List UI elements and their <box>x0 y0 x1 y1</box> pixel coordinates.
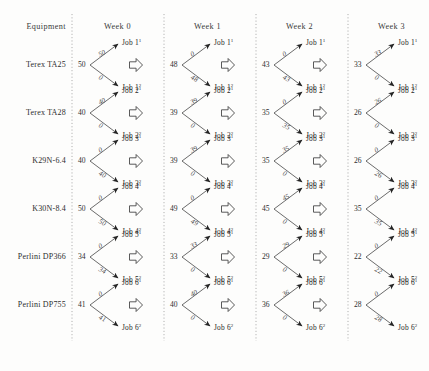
week-value-3-0: 50 <box>78 205 86 213</box>
job-label-top-1-1: Job 21 <box>214 86 234 95</box>
job-label-top-5-0: Job 61 <box>122 278 142 287</box>
equipment-name-3: K30N-8.4 <box>32 205 66 213</box>
week-value-1-0: 40 <box>78 109 86 117</box>
equipment-name-2: K29N-6.4 <box>32 157 66 165</box>
week-value-4-2: 29 <box>262 253 270 261</box>
week-value-1-2: 35 <box>262 109 270 117</box>
equipment-name-4: Perlini DP366 <box>18 253 66 261</box>
week-value-0-2: 43 <box>262 61 270 69</box>
week-value-3-3: 35 <box>354 205 362 213</box>
job-label-top-3-0: Job 41 <box>122 182 142 191</box>
week-value-5-2: 36 <box>262 301 270 309</box>
week-value-0-1: 48 <box>170 61 178 69</box>
job-label-bottom-5-2: Job 62 <box>306 323 326 332</box>
job-label-top-2-3: Job 31 <box>398 134 418 143</box>
figure-canvas: EquipmentWeek 0Week 1Week 2Week 3Terex T… <box>0 0 429 371</box>
week-value-1-3: 26 <box>354 109 362 117</box>
job-label-top-5-3: Job 61 <box>398 278 418 287</box>
equipment-column-header: Equipment <box>26 23 66 31</box>
job-label-top-4-3: Job 51 <box>398 230 418 239</box>
week-value-4-1: 33 <box>170 253 178 261</box>
job-label-top-1-2: Job 21 <box>306 86 326 95</box>
job-label-top-3-1: Job 41 <box>214 182 234 191</box>
job-label-top-0-1: Job 11 <box>214 38 234 47</box>
week-value-4-0: 34 <box>78 253 86 261</box>
week-value-2-0: 40 <box>78 157 86 165</box>
week-value-0-3: 33 <box>354 61 362 69</box>
job-label-top-0-2: Job 11 <box>306 38 326 47</box>
job-label-top-3-2: Job 41 <box>306 182 326 191</box>
week-value-4-3: 22 <box>354 253 362 261</box>
job-label-top-4-0: Job 51 <box>122 230 142 239</box>
job-label-top-4-2: Job 51 <box>306 230 326 239</box>
week-value-5-1: 40 <box>170 301 178 309</box>
week-column-header-3: Week 3 <box>378 23 405 31</box>
job-label-top-5-1: Job 61 <box>214 278 234 287</box>
week-column-header-0: Week 0 <box>104 23 131 31</box>
week-value-0-0: 50 <box>78 61 86 69</box>
job-label-top-3-3: Job 41 <box>398 182 418 191</box>
job-label-top-1-3: Job 21 <box>398 86 418 95</box>
week-value-3-1: 49 <box>170 205 178 213</box>
equipment-name-5: Perlini DP755 <box>18 301 66 309</box>
week-value-2-1: 39 <box>170 157 178 165</box>
job-label-top-4-1: Job 51 <box>214 230 234 239</box>
equipment-name-1: Terex TA28 <box>26 109 66 117</box>
job-label-bottom-5-3: Job 62 <box>398 323 418 332</box>
job-label-top-2-0: Job 31 <box>122 134 142 143</box>
week-column-header-2: Week 2 <box>286 23 313 31</box>
week-column-header-1: Week 1 <box>194 23 221 31</box>
job-label-top-0-3: Job 11 <box>398 38 418 47</box>
job-label-top-5-2: Job 61 <box>306 278 326 287</box>
job-label-bottom-5-1: Job 62 <box>214 323 234 332</box>
week-value-2-3: 26 <box>354 157 362 165</box>
equipment-name-0: Terex TA25 <box>26 61 66 69</box>
job-label-top-0-0: Job 11 <box>122 38 142 47</box>
week-value-1-1: 39 <box>170 109 178 117</box>
week-value-5-3: 28 <box>354 301 362 309</box>
job-label-top-2-1: Job 31 <box>214 134 234 143</box>
job-label-bottom-5-0: Job 62 <box>122 323 142 332</box>
job-label-top-1-0: Job 21 <box>122 86 142 95</box>
week-value-2-2: 35 <box>262 157 270 165</box>
week-value-5-0: 41 <box>78 301 86 309</box>
week-value-3-2: 45 <box>262 205 270 213</box>
job-label-top-2-2: Job 31 <box>306 134 326 143</box>
